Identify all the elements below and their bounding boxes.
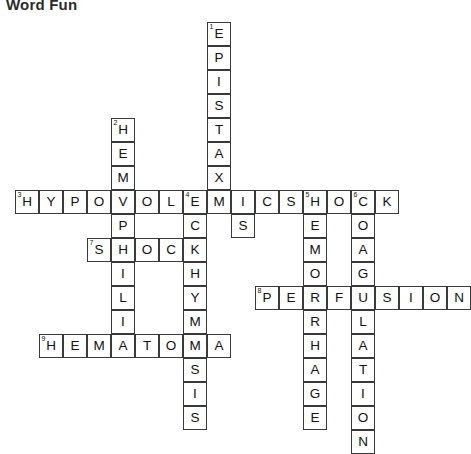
cell-letter: S <box>232 219 254 233</box>
crossword-cell[interactable]: E <box>111 142 135 166</box>
crossword-cell[interactable]: O <box>423 286 447 310</box>
cell-letter: O <box>424 291 446 305</box>
crossword-cell[interactable]: R <box>303 310 327 334</box>
crossword-cell[interactable]: E <box>63 334 87 358</box>
crossword-cell[interactable]: 6C <box>351 190 375 214</box>
crossword-cell[interactable]: I <box>207 70 231 94</box>
crossword-cell[interactable]: A <box>351 334 375 358</box>
cell-letter: K <box>184 243 206 257</box>
crossword-cell[interactable]: M <box>183 310 207 334</box>
crossword-cell[interactable]: A <box>351 238 375 262</box>
crossword-cell[interactable]: L <box>111 286 135 310</box>
crossword-cell[interactable]: S <box>207 94 231 118</box>
crossword-cell[interactable]: M <box>303 238 327 262</box>
crossword-cell[interactable]: F <box>327 286 351 310</box>
crossword-cell[interactable]: 3H <box>15 190 39 214</box>
crossword-cell[interactable]: I <box>111 262 135 286</box>
cell-letter: C <box>352 195 374 209</box>
crossword-cell[interactable]: 5H <box>303 190 327 214</box>
crossword-cell[interactable]: M <box>87 334 111 358</box>
crossword-cell[interactable]: M <box>207 190 231 214</box>
crossword-cell[interactable]: 4E <box>183 190 207 214</box>
crossword-cell[interactable]: K <box>183 238 207 262</box>
crossword-cell[interactable]: O <box>159 334 183 358</box>
crossword-cell[interactable]: I <box>399 286 423 310</box>
cell-letter: M <box>184 315 206 329</box>
cell-letter: E <box>64 339 86 353</box>
crossword-cell[interactable]: 9H <box>39 334 63 358</box>
crossword-cell[interactable]: C <box>183 214 207 238</box>
crossword-cell[interactable]: U <box>351 286 375 310</box>
crossword-cell[interactable]: O <box>327 190 351 214</box>
crossword-cell[interactable]: M <box>183 334 207 358</box>
crossword-cell[interactable]: O <box>351 214 375 238</box>
crossword-cell[interactable]: S <box>231 214 255 238</box>
crossword-cell[interactable]: P <box>111 214 135 238</box>
cell-letter: A <box>112 339 134 353</box>
crossword-cell[interactable]: S <box>375 286 399 310</box>
cell-letter: E <box>304 411 326 425</box>
cell-letter: K <box>376 195 398 209</box>
crossword-cell[interactable]: H <box>303 334 327 358</box>
cell-letter: N <box>448 291 470 305</box>
cell-letter: E <box>208 27 230 41</box>
crossword-cell[interactable]: C <box>159 238 183 262</box>
crossword-cell[interactable]: C <box>255 190 279 214</box>
crossword-cell[interactable]: L <box>159 190 183 214</box>
crossword-cell[interactable]: S <box>279 190 303 214</box>
crossword-cell[interactable]: P <box>63 190 87 214</box>
crossword-cell[interactable]: 2H <box>111 118 135 142</box>
crossword-cell[interactable]: T <box>135 334 159 358</box>
crossword-cell[interactable]: O <box>135 190 159 214</box>
crossword-cell[interactable]: V <box>111 190 135 214</box>
crossword-cell[interactable]: 7S <box>87 238 111 262</box>
crossword-cell[interactable]: O <box>135 238 159 262</box>
crossword-cell[interactable]: N <box>447 286 471 310</box>
cell-letter: H <box>16 195 38 209</box>
crossword-cell[interactable]: H <box>183 262 207 286</box>
cell-letter: Y <box>184 291 206 305</box>
crossword-cell[interactable]: P <box>207 46 231 70</box>
crossword-cell[interactable]: E <box>303 406 327 430</box>
crossword-cell[interactable]: N <box>351 430 375 454</box>
crossword-cell[interactable]: A <box>303 358 327 382</box>
crossword-cell[interactable]: I <box>111 310 135 334</box>
crossword-cell[interactable]: M <box>111 166 135 190</box>
crossword-cell[interactable]: E <box>303 214 327 238</box>
crossword-cell[interactable]: K <box>375 190 399 214</box>
crossword-cell[interactable]: I <box>351 382 375 406</box>
crossword-cell[interactable]: A <box>207 142 231 166</box>
cell-letter: S <box>280 195 302 209</box>
crossword-cell[interactable]: H <box>111 238 135 262</box>
crossword-cell[interactable]: S <box>183 358 207 382</box>
crossword-cell[interactable]: I <box>183 382 207 406</box>
cell-letter: C <box>256 195 278 209</box>
crossword-cell[interactable]: 1E <box>207 22 231 46</box>
crossword-cell[interactable]: 8P <box>255 286 279 310</box>
crossword-cell[interactable]: T <box>207 118 231 142</box>
crossword-cell[interactable]: A <box>207 334 231 358</box>
cell-letter: O <box>352 411 374 425</box>
crossword-cell[interactable]: I <box>231 190 255 214</box>
cell-letter: T <box>208 123 230 137</box>
crossword-cell[interactable]: T <box>351 358 375 382</box>
crossword-cell[interactable]: O <box>351 406 375 430</box>
crossword-cell[interactable]: Y <box>183 286 207 310</box>
crossword-cell[interactable]: G <box>351 262 375 286</box>
crossword-cell[interactable]: X <box>207 166 231 190</box>
cell-letter: S <box>88 243 110 257</box>
cell-letter: E <box>184 195 206 209</box>
crossword-cell[interactable]: A <box>111 334 135 358</box>
crossword-cell[interactable]: L <box>351 310 375 334</box>
crossword-cell[interactable]: R <box>303 286 327 310</box>
crossword-cell[interactable]: Y <box>39 190 63 214</box>
cell-letter: I <box>400 291 422 305</box>
crossword-cell[interactable]: G <box>303 382 327 406</box>
cell-letter: C <box>160 243 182 257</box>
crossword-cell[interactable]: O <box>87 190 111 214</box>
cell-letter: M <box>88 339 110 353</box>
crossword-cell[interactable]: E <box>279 286 303 310</box>
crossword-cell[interactable]: O <box>303 262 327 286</box>
cell-letter: S <box>184 411 206 425</box>
crossword-cell[interactable]: S <box>183 406 207 430</box>
